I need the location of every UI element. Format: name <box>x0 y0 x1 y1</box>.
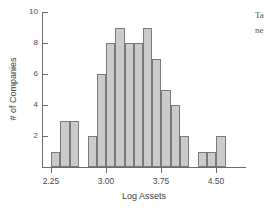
y-tick-label: 2 <box>16 132 38 140</box>
y-tick-label: 6 <box>16 70 38 78</box>
margin-text-line-1: Ta <box>255 8 277 23</box>
plot-area <box>42 12 244 167</box>
x-tick-label: 3.00 <box>89 176 123 186</box>
histogram-bar <box>134 43 143 167</box>
y-tick-mark <box>43 12 48 13</box>
histogram-bar <box>216 136 225 167</box>
y-tick-label: 10 <box>16 8 38 16</box>
x-tick-label: 2.25 <box>34 176 68 186</box>
histogram-bar <box>70 121 79 168</box>
y-tick-label: 4 <box>16 101 38 109</box>
margin-text-line-2: ne <box>255 23 277 38</box>
x-tick-mark <box>216 168 217 173</box>
histogram-bar <box>106 43 115 167</box>
histogram-bar <box>180 136 189 167</box>
histogram-bar <box>198 152 207 168</box>
x-axis-title: Log Assets <box>42 191 246 201</box>
histogram-bar <box>115 28 124 168</box>
x-tick-mark <box>106 168 107 173</box>
x-tick-mark <box>161 168 162 173</box>
y-tick-mark <box>43 136 48 137</box>
histogram-bar <box>207 152 216 168</box>
histogram-bar <box>97 74 106 167</box>
y-axis-line <box>42 12 43 168</box>
y-tick-mark <box>43 74 48 75</box>
histogram-bar <box>51 152 60 168</box>
histogram-bar <box>161 90 170 168</box>
y-axis-title: # of Companies <box>8 39 18 139</box>
histogram-bar <box>152 59 161 168</box>
x-tick-label: 4.50 <box>199 176 233 186</box>
page-margin-text: Ta ne <box>255 8 277 38</box>
histogram-bar <box>143 28 152 168</box>
histogram-bar <box>88 136 97 167</box>
x-tick-mark <box>51 168 52 173</box>
histogram-bar <box>60 121 69 168</box>
x-tick-label: 3.75 <box>144 176 178 186</box>
histogram-bar <box>171 105 180 167</box>
histogram-figure: 246810 2.253.003.754.50 Log Assets # of … <box>0 0 277 210</box>
y-tick-mark <box>43 43 48 44</box>
y-tick-mark <box>43 105 48 106</box>
histogram-bar <box>125 43 134 167</box>
y-tick-label: 8 <box>16 39 38 47</box>
bar-series <box>42 12 244 167</box>
